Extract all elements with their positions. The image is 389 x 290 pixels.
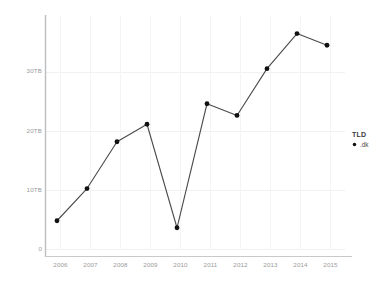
vertical-gridlines bbox=[61, 16, 331, 250]
data-point-2013[interactable] bbox=[265, 66, 270, 71]
data-point-2015[interactable] bbox=[325, 43, 330, 48]
data-point-2010[interactable] bbox=[175, 225, 180, 230]
y-tick-label-10tb: 10TB bbox=[20, 186, 42, 193]
x-tick-label-2007: 2007 bbox=[77, 261, 104, 268]
data-point-markers[interactable] bbox=[55, 31, 330, 230]
x-tick-label-2014: 2014 bbox=[287, 261, 314, 268]
x-tick-label-2009: 2009 bbox=[137, 261, 164, 268]
legend-entry-dk[interactable]: .dk bbox=[352, 141, 388, 148]
x-tick-label-2015: 2015 bbox=[317, 261, 344, 268]
x-tick-label-2011: 2011 bbox=[197, 261, 224, 268]
data-point-2008[interactable] bbox=[115, 139, 120, 144]
x-tick-label-2013: 2013 bbox=[257, 261, 284, 268]
data-series-line-dk bbox=[57, 34, 327, 228]
y-tick-label-30tb: 30TB bbox=[20, 67, 42, 74]
data-point-2009[interactable] bbox=[145, 122, 150, 127]
data-point-2006[interactable] bbox=[55, 218, 60, 223]
x-tick-label-2006: 2006 bbox=[47, 261, 74, 268]
data-point-2011[interactable] bbox=[205, 101, 210, 106]
x-tick-label-2012: 2012 bbox=[227, 261, 254, 268]
y-tick-label-20tb: 20TB bbox=[20, 127, 42, 134]
legend-title: TLD bbox=[352, 131, 388, 138]
data-point-2007[interactable] bbox=[85, 186, 90, 191]
data-point-2014[interactable] bbox=[295, 31, 300, 36]
x-tick-label-2008: 2008 bbox=[107, 261, 134, 268]
line-chart: 30TB 20TB 10TB 0 2006 2007 2008 2009 201… bbox=[0, 0, 389, 290]
circle-marker-icon bbox=[352, 142, 357, 147]
data-point-2012[interactable] bbox=[235, 113, 240, 118]
plot-area[interactable] bbox=[0, 0, 389, 290]
y-tick-label-0: 0 bbox=[20, 245, 42, 252]
x-tick-label-2010: 2010 bbox=[167, 261, 194, 268]
legend-entry-label: .dk bbox=[360, 141, 369, 148]
legend: TLD .dk bbox=[352, 131, 388, 148]
